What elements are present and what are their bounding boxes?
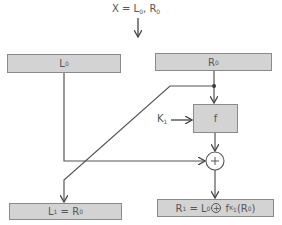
r1-arg-open: (R [237,203,248,214]
wires [0,0,282,225]
r1-label: R [176,203,183,214]
key-sub: 1 [164,118,168,125]
r1-box: R1 = L0+ fK1(R0) [157,199,274,217]
r1-f-sub: K1 [229,204,237,213]
f-box: f [193,104,238,133]
f-label: f [214,113,218,124]
l1-equals: = [57,206,72,217]
xor-inline-icon: + [211,203,221,213]
r1-l0-sub: 0 [207,205,211,212]
r1-f: f [222,203,229,214]
l1-box: L1 = R0 [9,203,122,220]
l0-box: L0 [7,54,121,73]
r1-equals: = [186,203,201,214]
r1-arg-close: ) [252,203,256,214]
r0-sub: 0 [215,59,219,66]
l1-r0-sub: 0 [79,208,83,215]
l1-r0: R [72,206,79,217]
key-label: K1 [157,113,167,125]
r0-label: R [208,57,215,68]
l0-sub: 0 [65,60,69,67]
r0-box: R0 [155,53,272,71]
r0-to-l1-line [64,86,214,202]
